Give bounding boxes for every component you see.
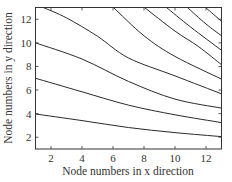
x-tick-label: 12 [201, 152, 212, 164]
y-tick-label: 2 [26, 131, 32, 143]
x-axis-label: Node numbers in x direction [62, 165, 194, 177]
x-tick-label: 8 [141, 152, 147, 164]
contour-3-line [36, 43, 222, 108]
x-tick-label: 6 [110, 152, 116, 164]
contour-lines [36, 8, 222, 137]
y-tick-labels: 24681012 [21, 13, 33, 143]
y-tick-label: 8 [26, 60, 32, 72]
contour-5-line [113, 8, 221, 80]
contour-1-line [36, 114, 222, 137]
contour-8-line [187, 8, 221, 36]
contour-2-line [36, 78, 222, 122]
y-tick-label: 10 [21, 37, 33, 49]
y-tick-label: 12 [21, 13, 32, 25]
contour-6-line [144, 8, 221, 65]
y-tick-label: 4 [26, 108, 32, 120]
x-tick-labels: 24681012 [48, 152, 211, 164]
contour-chart: 24681012 24681012 Node numbers in x dire… [0, 0, 232, 182]
contour-4-line [43, 8, 221, 94]
y-tick-label: 6 [26, 84, 32, 96]
x-tick-label: 10 [170, 152, 182, 164]
y-axis-label: Node numbers in y direction [2, 12, 15, 144]
x-tick-label: 2 [48, 152, 54, 164]
x-tick-label: 4 [79, 152, 85, 164]
